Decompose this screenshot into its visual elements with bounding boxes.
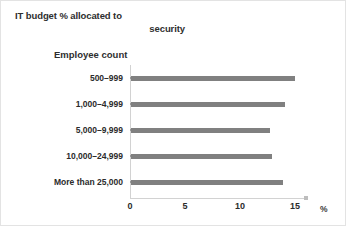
bar (131, 102, 285, 107)
bar (131, 154, 272, 159)
x-axis-tick-label: 10 (228, 201, 252, 211)
category-label: 500–999 (15, 67, 123, 89)
chart-frame: IT budget % allocated to security Employ… (0, 0, 346, 226)
category-label: 10,000–24,999 (15, 145, 123, 167)
bar (131, 180, 283, 185)
category-label: More than 25,000 (15, 171, 123, 193)
x-axis-line (130, 198, 307, 199)
x-axis-unit-label: % (320, 204, 328, 214)
plot-area: 500–999 1,000–4,999 5,000–9,999 10,000–2… (1, 1, 345, 225)
x-axis-tick-label: 0 (118, 201, 142, 211)
bar (131, 128, 270, 133)
category-label: 1,000–4,999 (15, 93, 123, 115)
category-label: 5,000–9,999 (15, 119, 123, 141)
x-axis-tick-label: 5 (173, 201, 197, 211)
bar (131, 76, 295, 81)
x-axis-tick-label: 15 (283, 201, 307, 211)
x-axis-end-marker (304, 196, 308, 200)
